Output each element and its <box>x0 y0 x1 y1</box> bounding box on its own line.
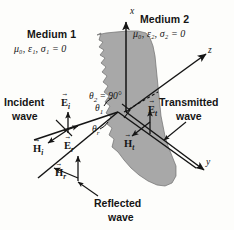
transmitted-label-leader <box>164 122 186 140</box>
reflected-label-leader <box>78 182 98 196</box>
E-incident-glyph: E <box>61 97 68 108</box>
incident-wave-label-line2: wave <box>12 111 38 122</box>
theta-r-subscript: r <box>97 129 100 137</box>
E-incident-label: Ei <box>61 97 70 111</box>
H-incident-subscript: i <box>41 148 43 157</box>
H-transmitted-subscript: t <box>132 143 134 152</box>
transmitted-wave-label-line1: Transmitted <box>159 97 219 108</box>
H-transmitted-glyph: H <box>124 138 132 149</box>
E-transmitted-glyph: E <box>148 104 155 115</box>
incident-wave-label-line1: Incident <box>4 97 44 108</box>
E-reflected-subscript: r <box>71 145 74 154</box>
interface-plane <box>97 31 176 186</box>
medium-1-title: Medium 1 <box>27 29 76 40</box>
E-transmitted-subscript: t <box>155 109 157 118</box>
theta1-label: θ1 <box>95 104 103 116</box>
theta1-subscript: 1 <box>100 108 104 116</box>
H-transmitted-label: Ht <box>124 138 134 152</box>
theta2-value: = 90° <box>100 91 122 101</box>
H-reflected-label: Hr <box>55 167 66 181</box>
E-transmitted-label: Et <box>148 104 157 118</box>
E-reflected-glyph: E <box>64 140 71 151</box>
medium-1-params: μ₀, ε₁, σ₁ = 0 <box>14 44 66 55</box>
medium-2-title: Medium 2 <box>140 14 189 25</box>
H-incident-label: Hi <box>33 143 43 157</box>
H-reflected-glyph: H <box>55 167 63 178</box>
E-reflected-label: Er <box>64 140 74 154</box>
E-incident-subscript: i <box>68 102 70 111</box>
medium-2-params: μ₀, ε₂, σ₂ = 0 <box>133 29 185 40</box>
transmitted-wave-label-line2: wave <box>176 111 202 122</box>
reflected-wave-label-line1: Reflected <box>94 198 141 209</box>
H-incident-glyph: H <box>33 143 41 154</box>
y-axis-label: y <box>206 158 210 168</box>
H-reflected-subscript: r <box>63 172 66 181</box>
reflected-wave-label-line2: wave <box>108 212 134 223</box>
physics-diagram-oblique-incidence: Medium 1 μ₀, ε₁, σ₁ = 0 Medium 2 μ₀, ε₂,… <box>0 0 234 230</box>
x-axis-label: x <box>130 7 134 17</box>
theta2-label: θ2 = 90° <box>89 92 122 104</box>
theta-r-label: θr <box>92 125 99 137</box>
interface-surface <box>97 31 176 186</box>
z-axis-label: z <box>208 46 212 56</box>
